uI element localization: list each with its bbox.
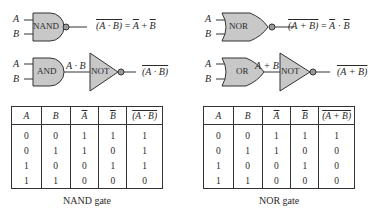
cell: 1 xyxy=(262,125,291,144)
cell: 1 xyxy=(262,143,291,158)
header-a: A xyxy=(12,107,42,125)
cell: 1 xyxy=(291,158,319,173)
and-not-output-expression: (A · B) xyxy=(142,67,168,77)
cell: 0 xyxy=(291,143,319,158)
or-input-a-label: A xyxy=(205,59,211,69)
gate-diagrams xyxy=(0,0,374,100)
and-input-b-label: B xyxy=(13,74,19,84)
cell: 0 xyxy=(204,125,234,144)
cell: 0 xyxy=(70,173,99,189)
nor-gate-label: NOR xyxy=(229,22,248,31)
or-input-b-label: B xyxy=(205,74,211,84)
nand-input-b-label: B xyxy=(13,29,19,39)
header-not-a: A xyxy=(262,107,291,125)
header-a: A xyxy=(204,107,234,125)
table-row: 1 0 0 1 0 xyxy=(204,158,355,173)
nor-gate-symbol xyxy=(216,13,294,41)
cell: 1 xyxy=(127,125,163,144)
cell: 0 xyxy=(319,143,355,158)
table-row: 0 0 1 1 1 xyxy=(12,125,163,144)
cell: 0 xyxy=(204,143,234,158)
not-gate-label: NOT xyxy=(91,67,110,76)
cell: 1 xyxy=(319,125,355,144)
and-gate-label: AND xyxy=(37,67,57,76)
cell: 1 xyxy=(41,173,70,189)
cell: 1 xyxy=(291,125,319,144)
cell: 1 xyxy=(70,143,99,158)
cell: 1 xyxy=(99,158,127,173)
header-not-a: A xyxy=(70,107,99,125)
cell: 0 xyxy=(319,158,355,173)
or-gate-label: OR xyxy=(236,67,249,76)
table-row: 0 0 1 1 1 xyxy=(204,125,355,144)
cell: 0 xyxy=(291,173,319,189)
cell: 0 xyxy=(319,173,355,189)
nor-caption: NOR gate xyxy=(259,196,299,206)
cell: 1 xyxy=(233,173,262,189)
cell: 0 xyxy=(262,173,291,189)
cell: 0 xyxy=(127,173,163,189)
header-b: B xyxy=(41,107,70,125)
nor-input-b-label: B xyxy=(205,29,211,39)
nor-output-expression: (A + B) = A · B xyxy=(288,21,350,31)
header-b: B xyxy=(233,107,262,125)
cell: 1 xyxy=(233,143,262,158)
nor-truth-table: A B A B (A + B) 0 0 1 1 1 0 1 1 0 0 1 0 … xyxy=(203,106,355,189)
cell: 0 xyxy=(41,158,70,173)
cell: 1 xyxy=(70,125,99,144)
nand-caption: NAND gate xyxy=(63,196,111,206)
table-row: 0 1 1 0 1 xyxy=(12,143,163,158)
cell: 1 xyxy=(12,173,42,189)
cell: 1 xyxy=(127,143,163,158)
not-gate-label-nor: NOT xyxy=(281,67,300,76)
nand-input-a-label: A xyxy=(13,14,19,24)
and-mid-expression: A · B xyxy=(66,61,86,71)
cell: 0 xyxy=(12,125,42,144)
and-input-a-label: A xyxy=(13,59,19,69)
table-row: 1 1 0 0 0 xyxy=(204,173,355,189)
cell: 0 xyxy=(70,158,99,173)
nand-output-expression: (A · B) = A + B xyxy=(96,21,156,31)
cell: 0 xyxy=(12,143,42,158)
cell: 0 xyxy=(99,143,127,158)
nand-gate-label: NAND xyxy=(33,22,59,31)
table-row: 1 1 0 0 0 xyxy=(12,173,163,189)
cell: 0 xyxy=(99,173,127,189)
cell: 1 xyxy=(204,158,234,173)
nand-truth-table: A B A B (A · B) 0 0 1 1 1 0 1 1 0 1 1 0 … xyxy=(11,106,163,189)
cell: 1 xyxy=(99,125,127,144)
header-nor: (A + B) xyxy=(319,107,355,125)
cell: 0 xyxy=(41,125,70,144)
table-row: 0 1 1 0 0 xyxy=(204,143,355,158)
or-mid-expression: A + B xyxy=(255,61,279,71)
cell: 0 xyxy=(233,158,262,173)
table-row: 1 0 0 1 1 xyxy=(12,158,163,173)
cell: 1 xyxy=(12,158,42,173)
header-nand: (A · B) xyxy=(127,107,163,125)
cell: 0 xyxy=(233,125,262,144)
cell: 0 xyxy=(262,158,291,173)
header-not-b: B xyxy=(291,107,319,125)
cell: 1 xyxy=(204,173,234,189)
table-header-row: A B A B (A + B) xyxy=(204,107,355,125)
cell: 1 xyxy=(41,143,70,158)
header-not-b: B xyxy=(99,107,127,125)
cell: 1 xyxy=(127,158,163,173)
nor-input-a-label: A xyxy=(205,14,211,24)
table-header-row: A B A B (A · B) xyxy=(12,107,163,125)
or-not-output-expression: (A + B) xyxy=(337,67,367,77)
